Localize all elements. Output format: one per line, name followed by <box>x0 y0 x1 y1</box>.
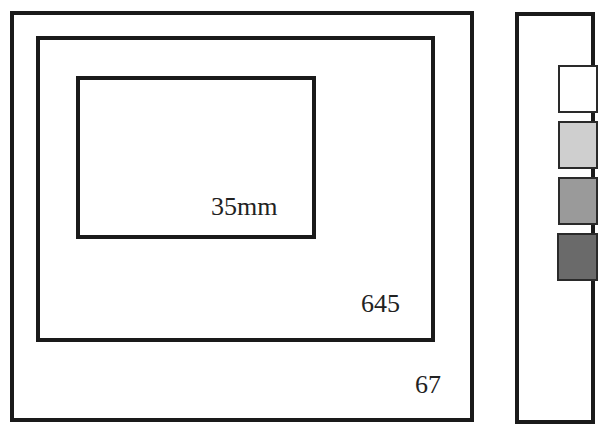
frame-35mm <box>76 76 316 239</box>
legend-swatch-white <box>558 65 598 113</box>
label-645: 645 <box>361 291 400 317</box>
label-35mm: 35mm <box>211 194 277 220</box>
label-67: 67 <box>415 372 441 398</box>
legend-swatch-mid-gray <box>558 177 598 225</box>
legend-swatch-dark-gray <box>557 233 598 281</box>
legend-swatch-light-gray <box>558 121 598 169</box>
